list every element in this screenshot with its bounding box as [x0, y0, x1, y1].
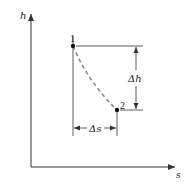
- s-axis-label: s: [176, 170, 181, 180]
- delta-h-label: Δh: [127, 73, 142, 84]
- state-point-2-label: 2: [120, 100, 125, 111]
- delta-s-label: Δs: [88, 123, 101, 134]
- state-point-1-label: 1: [70, 33, 75, 44]
- state-points: 1 2: [70, 33, 125, 112]
- h-axis-label: h: [20, 10, 26, 21]
- extension-lines: [73, 36, 143, 136]
- process-path-1-to-2: [73, 46, 117, 110]
- delta-h-dimension: Δh: [127, 47, 142, 109]
- delta-s-dimension: Δs: [74, 123, 116, 134]
- state-point-2: [115, 108, 119, 112]
- h-s-diagram: h s 1 2 Δh Δs: [0, 0, 185, 191]
- axes: h s: [20, 10, 181, 180]
- state-point-1: [71, 44, 75, 48]
